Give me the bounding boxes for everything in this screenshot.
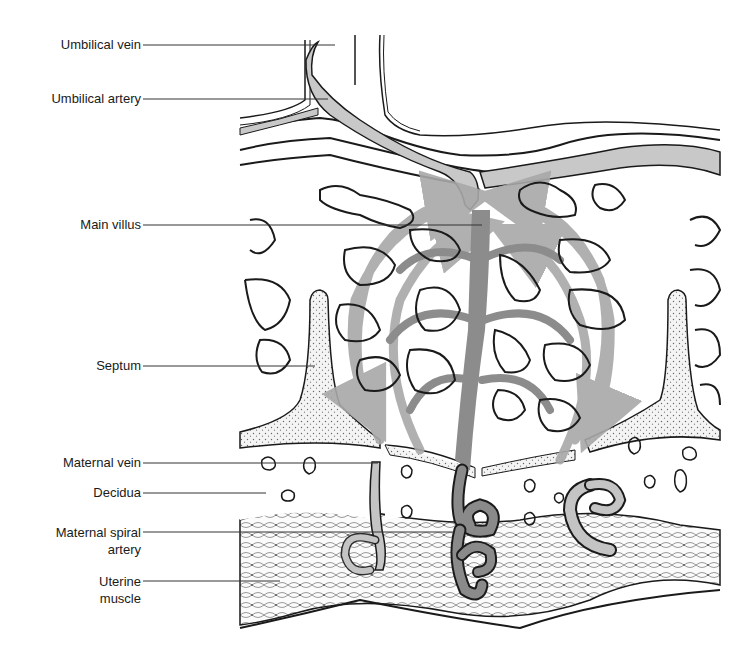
label-maternal-spiral-artery: Maternal spiral artery <box>56 524 141 558</box>
label-main-villus: Main villus <box>80 217 141 233</box>
label-uterine-muscle-line1: Uterine <box>99 573 141 590</box>
chorionic-plate <box>240 35 720 210</box>
label-maternal-spiral-artery-line1: Maternal spiral <box>56 524 141 541</box>
label-decidua: Decidua <box>93 485 141 501</box>
label-umbilical-artery: Umbilical artery <box>51 91 141 107</box>
label-uterine-muscle-line2: muscle <box>99 590 141 607</box>
label-maternal-spiral-artery-line2: artery <box>56 541 141 558</box>
label-maternal-vein: Maternal vein <box>63 455 141 471</box>
label-umbilical-vein: Umbilical vein <box>61 37 141 53</box>
label-uterine-muscle: Uterine muscle <box>99 573 141 607</box>
label-septum: Septum <box>96 358 141 374</box>
